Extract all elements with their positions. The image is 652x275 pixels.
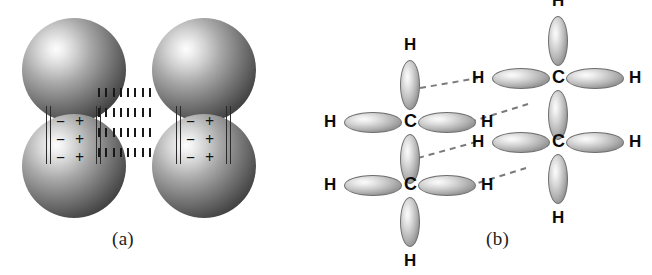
dipole-molecule-right: − + − + − + [152, 18, 256, 218]
interaction-dash-row [98, 148, 151, 157]
charge-pair-row: − + [186, 150, 224, 166]
panel-a: − + − + − + [0, 0, 330, 275]
dash-tick [105, 88, 107, 97]
dash-tick [134, 128, 136, 137]
carbon-label: C [404, 176, 417, 193]
orbital-lobe-left [344, 112, 402, 133]
dash-tick [98, 148, 100, 157]
hydrogen-label-down: H [552, 209, 564, 226]
orbital-lobe-right [418, 112, 476, 133]
charge-pair-row: − + [186, 132, 224, 148]
dash-tick [142, 108, 144, 117]
dash-tick [134, 148, 136, 157]
hydrogen-label-right: H [629, 69, 641, 86]
hydrogen-label-up: H [404, 36, 416, 53]
negative-charge-symbol: − [186, 114, 195, 130]
dash-tick [134, 88, 136, 97]
hydrogen-label-left: H [472, 133, 484, 150]
dipole-interaction-dashes [98, 88, 158, 168]
dash-tick [98, 108, 100, 117]
negative-charge-symbol: − [56, 150, 65, 166]
negative-charge-symbol: − [56, 132, 65, 148]
dash-tick [142, 148, 144, 157]
interaction-dash-row [98, 88, 151, 97]
dash-tick [120, 128, 122, 137]
panel-a-label: (a) [112, 228, 134, 250]
positive-charge-symbol: + [75, 150, 84, 166]
dash-tick [149, 88, 151, 97]
positive-charge-symbol: + [75, 132, 84, 148]
hydrogen-label-left: H [324, 113, 336, 130]
dash-tick [120, 108, 122, 117]
dispersion-dash-line [418, 142, 476, 158]
bond-line [46, 106, 47, 164]
dash-tick [134, 108, 136, 117]
dash-tick [142, 128, 144, 137]
charge-pair-row: − + [56, 132, 94, 148]
dash-tick [149, 128, 151, 137]
dash-tick [113, 108, 115, 117]
charge-pair-row: − + [56, 150, 94, 166]
charge-pair-row: − + [186, 114, 224, 130]
bond-line [96, 106, 97, 164]
bond-line [50, 106, 51, 164]
bond-line [230, 106, 231, 164]
hydrogen-label-down: H [404, 252, 416, 269]
orbital-lobe-up [548, 16, 568, 66]
dash-tick [127, 148, 129, 157]
carbon-label: C [404, 113, 417, 130]
negative-charge-symbol: − [186, 150, 195, 166]
dash-tick [113, 88, 115, 97]
dispersion-dash-line [420, 78, 478, 88]
hydrogen-label-left: H [324, 176, 336, 193]
dash-tick [105, 148, 107, 157]
dash-tick [127, 128, 129, 137]
hydrogen-label-up: H [552, 0, 564, 9]
interaction-dash-row [98, 128, 151, 137]
dash-tick [105, 128, 107, 137]
dash-tick [127, 88, 129, 97]
dash-tick [98, 128, 100, 137]
dispersion-dash-line [468, 168, 526, 186]
bond-line [176, 106, 177, 164]
dash-tick [105, 108, 107, 117]
orbital-lobe-left [492, 132, 550, 153]
orbital-lobe-up [400, 60, 420, 110]
bond-line [226, 106, 227, 164]
charge-pair-row: − + [56, 114, 94, 130]
interaction-dash-row [98, 108, 151, 117]
bond-line [180, 106, 181, 164]
orbital-lobe-right [566, 132, 624, 153]
positive-charge-symbol: + [205, 150, 214, 166]
hydrogen-label-left: H [472, 69, 484, 86]
dash-tick [113, 148, 115, 157]
positive-charge-symbol: + [205, 132, 214, 148]
hydrogen-label-right: H [481, 176, 493, 193]
panel-b: C H H H C H H H C H H H [330, 0, 652, 275]
dash-tick [120, 88, 122, 97]
figure-canvas: − + − + − + [0, 0, 652, 275]
carbon-label: C [552, 69, 565, 86]
negative-charge-symbol: − [56, 114, 65, 130]
orbital-lobe-right [566, 68, 624, 89]
orbital-lobe-left [344, 175, 402, 196]
dash-tick [98, 88, 100, 97]
dash-tick [142, 88, 144, 97]
dash-tick [149, 108, 151, 117]
dash-tick [120, 148, 122, 157]
dash-tick [149, 148, 151, 157]
positive-charge-symbol: + [75, 114, 84, 130]
carbon-label: C [552, 133, 565, 150]
orbital-lobe-left [492, 68, 550, 89]
orbital-lobe-down [548, 154, 568, 204]
panel-b-label: (b) [486, 228, 509, 250]
negative-charge-symbol: − [186, 132, 195, 148]
positive-charge-symbol: + [205, 114, 214, 130]
hydrogen-label-right: H [481, 113, 493, 130]
dash-tick [113, 128, 115, 137]
orbital-lobe-right [418, 175, 476, 196]
orbital-lobe-down [400, 197, 420, 247]
dash-tick [127, 108, 129, 117]
dispersion-dash-line [470, 104, 528, 122]
hydrogen-label-right: H [629, 133, 641, 150]
